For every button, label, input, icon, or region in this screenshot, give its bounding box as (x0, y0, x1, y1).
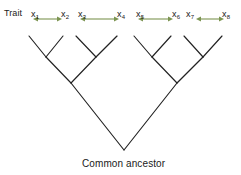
branch-A-to-AB (29, 36, 46, 57)
branch-B-to-AB (46, 36, 63, 57)
branch-E-to-EF (134, 36, 152, 57)
trait-subscript: 5 (141, 14, 144, 20)
branch-F-to-EF (152, 36, 171, 57)
trait-axis-label: Trait (4, 8, 22, 18)
tree-branches-canvas (0, 0, 241, 175)
trait-subscript: 7 (191, 14, 194, 20)
branch-CD-to-ABCD (71, 57, 96, 83)
branch-D-to-CD (96, 36, 117, 57)
common-ancestor-label: Common ancestor (82, 158, 165, 169)
trait-subscript: 8 (227, 14, 230, 20)
trait-base: x (61, 9, 66, 19)
trait-subscript: 6 (177, 14, 180, 20)
branch-ABCD-to-root (71, 83, 124, 150)
phylogenetic-tree-diagram: Trait x1x2x3x4x5x6x7x8 Common ancestor (0, 0, 241, 175)
trait-label-x7: x7 (186, 10, 194, 20)
trait-base: x (78, 9, 83, 19)
trait-label-x4: x4 (117, 10, 125, 20)
trait-base: x (222, 9, 227, 19)
trait-subscript: 1 (36, 14, 39, 20)
trait-label-x5: x5 (136, 10, 144, 20)
branch-GH-to-EFGH (177, 57, 203, 83)
trait-subscript: 4 (122, 14, 125, 20)
trait-base: x (136, 9, 141, 19)
trait-label-x2: x2 (61, 10, 69, 20)
branch-AB-to-ABCD (46, 57, 71, 83)
branch-EFGH-to-root (124, 83, 177, 150)
trait-subscript: 3 (83, 14, 86, 20)
branch-EF-to-EFGH (152, 57, 177, 83)
trait-label-x8: x8 (222, 10, 230, 20)
arrow-x7-x8 (196, 16, 224, 21)
branch-C-to-CD (76, 36, 96, 57)
branch-G-to-GH (184, 36, 203, 57)
trait-base: x (31, 9, 36, 19)
trait-base: x (172, 9, 177, 19)
trait-label-x6: x6 (172, 10, 180, 20)
trait-base: x (117, 9, 122, 19)
trait-base: x (186, 9, 191, 19)
trait-label-x3: x3 (78, 10, 86, 20)
trait-subscript: 2 (66, 14, 69, 20)
branch-H-to-GH (203, 36, 222, 57)
trait-label-x1: x1 (31, 10, 39, 20)
